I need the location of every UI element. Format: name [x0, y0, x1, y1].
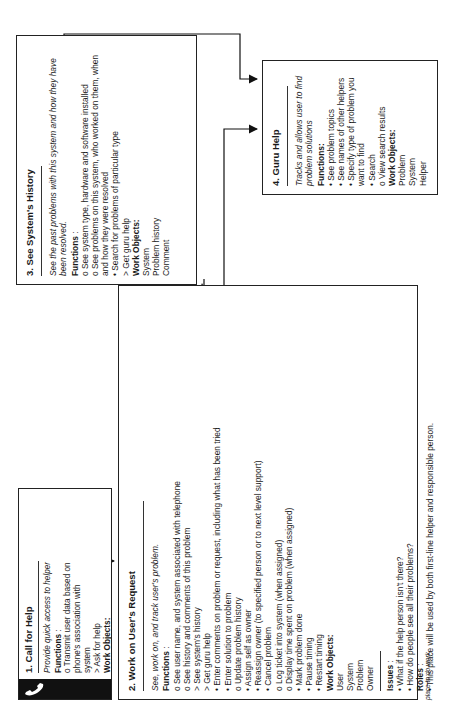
diagram-stage: 1. Call for Help Provide quick access to… — [0, 0, 454, 719]
box2-function-item: o Log ticket into system (when assigned) — [274, 294, 284, 691]
box2-function-item: > Get guru help — [202, 294, 212, 691]
box2-function-item: o See history and comments of this probl… — [182, 294, 192, 691]
box1-functions-label: Functions — [54, 634, 63, 673]
place-work-on-users-request-card: 2. Work on User's Request See, work on, … — [118, 285, 418, 700]
box3-function-item: o See system type, hardware and software… — [80, 42, 90, 276]
box2-function-item: o See user name, and system associated w… — [172, 294, 182, 691]
box2-functions-colon: : — [161, 646, 171, 651]
box4-function-item: • See names of other helpers — [336, 67, 346, 186]
box3-functions-colon: : — [70, 231, 80, 236]
box4-work-object: Helper — [418, 67, 428, 186]
box4-function-item: • Specify type of problem you want to fi… — [346, 67, 366, 186]
place-guru-help: 4. Guru Help Tracks and allows user to f… — [262, 60, 438, 195]
box3-work-object: Comment — [161, 42, 171, 276]
phone-bar — [19, 679, 111, 699]
box2-work-object: Owner — [365, 294, 375, 691]
box4-work-objects-list: ProblemSystemHelper — [397, 67, 428, 186]
box4-work-object: System — [407, 67, 417, 186]
box3-title-rule — [41, 166, 42, 276]
box4-work-object: Problem — [397, 67, 407, 186]
box2-work-object: System — [345, 294, 355, 691]
box2-function-item: • Reassign owner (to specified person or… — [253, 294, 263, 691]
box2-function-item: • Pause timing — [304, 294, 314, 691]
box2-function-item: • Assign self as owner — [243, 294, 253, 691]
box1-function-item: > Ask for help — [93, 561, 103, 673]
box3-function-item: • Search for problems of particular type — [110, 42, 120, 276]
box4-functions-list: • See problem topics• See names of other… — [326, 67, 387, 186]
box2-role-item: • This place will be used by both first-… — [425, 294, 435, 691]
box1-title-rule — [38, 561, 39, 673]
box3-work-objects-list: SystemProblem historyComment — [141, 42, 172, 276]
box1-function-item: o Transmit user data based on phone's as… — [63, 561, 92, 673]
box2-work-objects-label: Work Objects: — [325, 294, 335, 691]
box2-issues-rule — [380, 651, 381, 691]
place-see-systems-history: 3. See System's History See the past pro… — [16, 35, 197, 285]
box2-function-item: • Cancel problem — [263, 294, 273, 691]
box1-work-objects-label: Work Objects: — [103, 561, 112, 673]
box1-functions-colon: : — [54, 629, 63, 634]
box2-functions-label: Functions — [161, 651, 171, 691]
box2-roles-list: • This place will be used by both first-… — [425, 294, 435, 691]
box4-function-item: o View search results — [377, 67, 387, 186]
box4-function-item: • See problem topics — [326, 67, 336, 186]
box2-function-item: o Update problem history — [233, 294, 243, 691]
box2-function-item: > See system's history — [192, 294, 202, 691]
box2-issues-colon: : — [385, 660, 395, 665]
box3-functions-label: Functions — [70, 236, 80, 276]
box3-work-objects-label: Work Objects: — [131, 42, 141, 276]
box1-title: 1. Call for Help — [24, 493, 34, 673]
box3-title: 3. See System's History — [25, 42, 35, 276]
box3-work-object: Problem history — [151, 42, 161, 276]
box3-work-object: System — [141, 42, 151, 276]
box3-function-item: > Get guru help — [121, 42, 131, 276]
box2-issue-item: • What if the help person isn't there? — [395, 294, 405, 691]
box3-functions-list: o See system type, hardware and software… — [80, 42, 131, 276]
box2-function-item: • Mark problem done — [294, 294, 304, 691]
box1-description: Provide quick access to helper — [43, 561, 53, 673]
box4-work-objects-label: Work Objects: — [387, 67, 397, 186]
box2-title: 2. Work on User's Request — [127, 294, 137, 691]
box2-work-objects-list: UserSystemProblemOwner — [335, 294, 376, 691]
box2-function-item: o Display time spent on problem (when as… — [284, 294, 294, 691]
box2-work-object: User — [335, 294, 345, 691]
telephone-icon — [23, 680, 45, 698]
box2-functions-list: o See user name, and system associated w… — [172, 294, 325, 691]
box2-work-object: Problem — [355, 294, 365, 691]
place-call-for-help-card: 1. Call for Help Provide quick access to… — [18, 488, 112, 700]
box2-issues-label: Issues — [385, 665, 395, 691]
box3-description: See the past problems with this system a… — [48, 42, 68, 276]
box2-issue-item: • How do people see all their problems? — [405, 294, 415, 691]
box4-description: Tracks and allows user to find problem s… — [294, 67, 314, 186]
box2-issues-list: • What if the help person isn't there?• … — [395, 294, 415, 691]
box3-function-item: o See problems on this system, who worke… — [90, 42, 110, 276]
box4-function-item: • Search — [367, 67, 377, 186]
box2-function-item: • Restart timing — [314, 294, 324, 691]
box4-functions-label: Functions: — [316, 67, 326, 186]
box4-title-rule — [287, 86, 288, 186]
box2-function-item: • Enter solution to problem — [223, 294, 233, 691]
box4-title: 4. Guru Help — [271, 67, 281, 186]
box2-function-item: • Enter comments on problem or request, … — [212, 294, 222, 691]
legend-place-label: place to do work — [424, 652, 432, 700]
box2-title-rule — [143, 501, 144, 691]
box2-description: See, work on, and track user's problem. — [150, 294, 160, 691]
